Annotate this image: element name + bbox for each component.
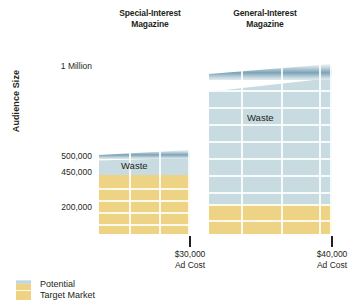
legend-swatch-gridline [16,290,31,291]
ad-cost-caption: Ad Cost [282,260,352,271]
ad-cost-caption: Ad Cost [140,260,240,271]
column-header-general-interest: General-Interest Magazine [203,8,327,30]
bar-top-cap [99,150,190,159]
y-axis-tick-group: 1 Million 500,000 450,000 200,000 [22,0,92,308]
x-axis-label-special: $30,000 Ad Cost [140,249,240,271]
legend-label-target-market: Potential Target Market [40,279,95,301]
y-axis-tick-200000: 200,000 [26,202,92,212]
ad-cost-value: $40,000 [282,249,352,260]
column-header-line2: Magazine [95,19,205,30]
legend-label-line1: Potential [40,279,95,290]
column-header-line2: Magazine [203,19,327,30]
y-axis-title: Audience Size [11,49,21,153]
column-header-line1: Special-Interest [95,8,205,19]
legend-swatch-cap [16,280,31,284]
bar-label-waste-special: Waste [121,160,148,171]
x-axis-tick-special [189,236,191,247]
y-axis-tick-500000: 500,000 [26,151,92,161]
bar-segment-waste [209,78,332,204]
legend-label-line2: Target Market [40,290,95,301]
column-header-line1: General-Interest [203,8,327,19]
legend-swatch-target-market [16,280,31,300]
bar-label-waste-general: Waste [247,112,274,123]
legend: Potential Target Market [16,279,95,301]
bar-segment-target-market [209,204,332,234]
bar-top-cap [209,64,332,80]
x-axis-label-general: $40,000 Ad Cost [282,249,352,271]
x-axis-tick-general [331,236,333,247]
y-axis-tick-450000: 450,000 [26,167,92,177]
bar-segment-target-market [99,175,190,234]
bar-general-interest [209,64,332,234]
ad-cost-value: $30,000 [140,249,240,260]
y-axis-tick-1-million: 1 Million [26,61,92,71]
column-header-special-interest: Special-Interest Magazine [95,8,205,30]
